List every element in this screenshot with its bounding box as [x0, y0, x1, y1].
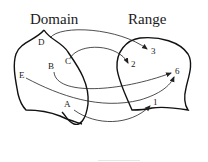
domain-title: Domain [30, 11, 79, 27]
range-point-3: 3 [151, 46, 156, 56]
domain-subset-curve [44, 30, 88, 124]
range-point-6: 6 [175, 66, 180, 76]
range-point-2: 2 [131, 59, 136, 69]
domain-range-diagram: Domain Range D C B E A 3 2 6 1 [0, 0, 208, 162]
domain-point-e: E [19, 70, 25, 80]
domain-point-d: D [38, 37, 45, 47]
mapping-arrow-e-6 [26, 77, 174, 103]
range-title: Range [128, 11, 167, 27]
mapping-arrow-b-6 [54, 72, 171, 89]
domain-point-a: A [64, 99, 71, 109]
domain-point-b: B [48, 61, 54, 71]
faint-divider [98, 160, 140, 161]
domain-point-c: C [65, 56, 71, 66]
range-point-1: 1 [153, 97, 158, 107]
